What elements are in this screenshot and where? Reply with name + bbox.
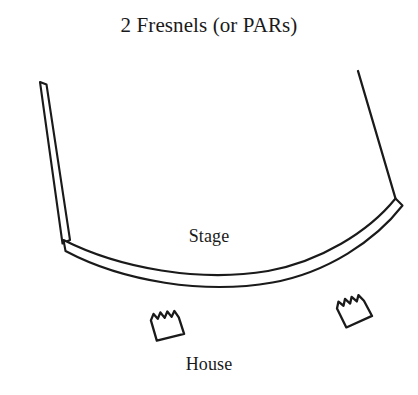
stage-area-label: Stage [0,227,418,245]
stage-plot-drawing [0,0,418,395]
fresnel-fixture-left-body [150,310,185,342]
diagram-title: 2 Fresnels (or PARs) [0,15,418,36]
fresnel-fixture-right-body [335,293,373,329]
fresnel-fixture-right [335,293,373,329]
left-proscenium-wall-shape [40,82,70,244]
fresnel-fixture-left [150,310,185,342]
stage-lighting-plot-diagram: 2 Fresnels (or PARs) Stage House [0,0,418,395]
house-area-label: House [0,355,418,373]
right-proscenium-wall-line [358,71,396,199]
